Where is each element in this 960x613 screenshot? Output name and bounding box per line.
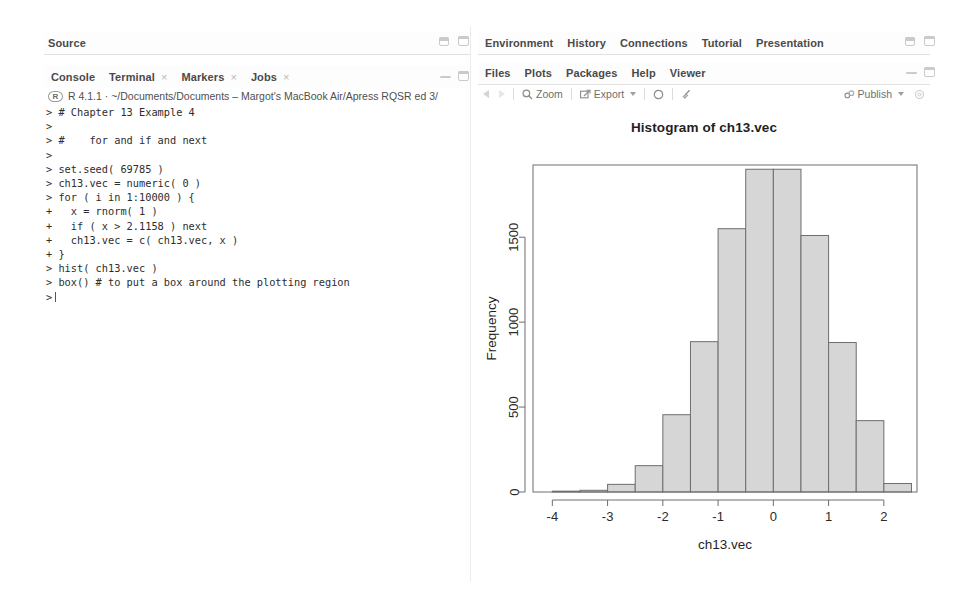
x-axis-tick-label: -3	[602, 509, 614, 524]
x-axis-tick-label: -2	[657, 509, 669, 524]
clear-plots-button[interactable]	[676, 89, 697, 100]
environment-pane-controls	[905, 36, 936, 47]
histogram-bar	[746, 169, 774, 492]
console-code-text: > # Chapter 13 Example 4 > > # for and i…	[44, 105, 470, 304]
histogram-bar	[856, 421, 884, 492]
tab-terminal[interactable]: Terminal	[102, 66, 174, 88]
histogram-bar	[608, 484, 636, 492]
publish-label: Publish	[858, 88, 892, 100]
histogram-bar	[829, 343, 857, 492]
publish-settings-button[interactable]	[909, 89, 930, 100]
histogram-bar	[884, 484, 912, 492]
rstudio-window: Source Console Terminal Markers Jobs R R…	[0, 0, 960, 613]
maximize-icon[interactable]	[457, 71, 470, 82]
tab-history[interactable]: History	[560, 32, 613, 54]
histogram-svg: -4-3-2-1012050010001500ch13.vecFrequency	[478, 106, 930, 571]
minimize-icon[interactable]	[439, 36, 452, 47]
tab-plots[interactable]: Plots	[518, 62, 559, 84]
maximize-icon[interactable]	[923, 67, 936, 78]
back-button[interactable]	[478, 90, 494, 98]
gear-icon	[914, 89, 925, 100]
y-axis-tick-label: 0	[507, 488, 522, 495]
tab-environment[interactable]: Environment	[478, 32, 560, 54]
console-version-path: R 4.1.1 · ~/Documents/Documents – Margot…	[68, 90, 438, 102]
pane-splitter[interactable]	[470, 26, 471, 582]
minimize-icon[interactable]	[439, 71, 452, 82]
magnifier-icon	[522, 89, 533, 100]
toolbar-divider	[644, 88, 645, 100]
y-axis-title: Frequency	[484, 296, 499, 360]
histogram-bar	[773, 169, 801, 492]
toolbar-divider	[571, 88, 572, 100]
environment-pane-tabbar: Environment History Connections Tutorial…	[478, 32, 930, 55]
publish-button[interactable]: Publish	[839, 88, 909, 100]
files-pane-tabbar: Files Plots Packages Help Viewer	[478, 62, 930, 85]
arrow-left-icon	[483, 90, 489, 98]
export-icon	[580, 89, 591, 100]
plot-canvas[interactable]: Histogram of ch13.vec -4-3-2-10120500100…	[478, 106, 930, 571]
tab-console[interactable]: Console	[44, 66, 102, 88]
r-logo-icon: R	[48, 91, 63, 102]
zoom-button[interactable]: Zoom	[517, 88, 568, 100]
files-pane-controls	[905, 67, 936, 78]
tab-jobs[interactable]: Jobs	[244, 66, 297, 88]
tab-connections[interactable]: Connections	[613, 32, 695, 54]
x-axis-tick-label: -1	[712, 509, 724, 524]
y-axis-tick-label: 500	[507, 396, 522, 418]
plot-toolbar: Zoom Export	[478, 84, 930, 104]
tab-tutorial[interactable]: Tutorial	[695, 32, 749, 54]
zoom-label: Zoom	[536, 88, 563, 100]
broom-icon	[681, 89, 692, 100]
remove-plot-button[interactable]	[648, 89, 669, 100]
x-axis-tick-label: 2	[880, 509, 887, 524]
tab-viewer[interactable]: Viewer	[663, 62, 713, 84]
source-pane-controls	[439, 36, 470, 47]
x-axis-title: ch13.vec	[698, 537, 752, 552]
chevron-down-icon[interactable]	[630, 92, 636, 96]
x-axis-tick-label: 0	[770, 509, 777, 524]
y-axis-tick-label: 1500	[507, 223, 522, 252]
arrow-right-icon	[499, 90, 505, 98]
export-label: Export	[594, 88, 624, 100]
minimize-icon[interactable]	[905, 67, 918, 78]
tab-packages[interactable]: Packages	[559, 62, 625, 84]
maximize-icon[interactable]	[457, 36, 470, 47]
tab-markers[interactable]: Markers	[174, 66, 243, 88]
histogram-bar	[635, 466, 663, 492]
tab-help[interactable]: Help	[625, 62, 663, 84]
console-session-path: R R 4.1.1 · ~/Documents/Documents – Marg…	[44, 88, 470, 105]
console-pane-tabbar: Console Terminal Markers Jobs	[44, 66, 470, 89]
console-caret	[55, 292, 56, 302]
toolbar-divider	[513, 88, 514, 100]
minimize-icon[interactable]	[905, 36, 918, 47]
export-button[interactable]: Export	[575, 88, 641, 100]
tab-source[interactable]: Source	[44, 32, 93, 54]
histogram-bar	[690, 342, 718, 492]
histogram-bar	[663, 415, 691, 492]
source-pane-tabbar: Source	[44, 32, 470, 55]
x-axis-tick-label: 1	[825, 509, 832, 524]
tab-presentation[interactable]: Presentation	[749, 32, 831, 54]
forward-button[interactable]	[494, 90, 510, 98]
tab-files[interactable]: Files	[478, 62, 518, 84]
maximize-icon[interactable]	[923, 36, 936, 47]
x-axis-tick-label: -4	[547, 509, 559, 524]
histogram-bar	[801, 235, 829, 492]
chevron-down-icon[interactable]	[898, 92, 904, 96]
histogram-bar	[718, 229, 746, 492]
y-axis-tick-label: 1000	[507, 308, 522, 337]
toolbar-divider	[672, 88, 673, 100]
console-output[interactable]: R R 4.1.1 · ~/Documents/Documents – Marg…	[44, 88, 470, 568]
console-pane-controls	[439, 71, 470, 82]
circle-x-icon	[653, 89, 664, 100]
publish-icon	[844, 89, 855, 100]
